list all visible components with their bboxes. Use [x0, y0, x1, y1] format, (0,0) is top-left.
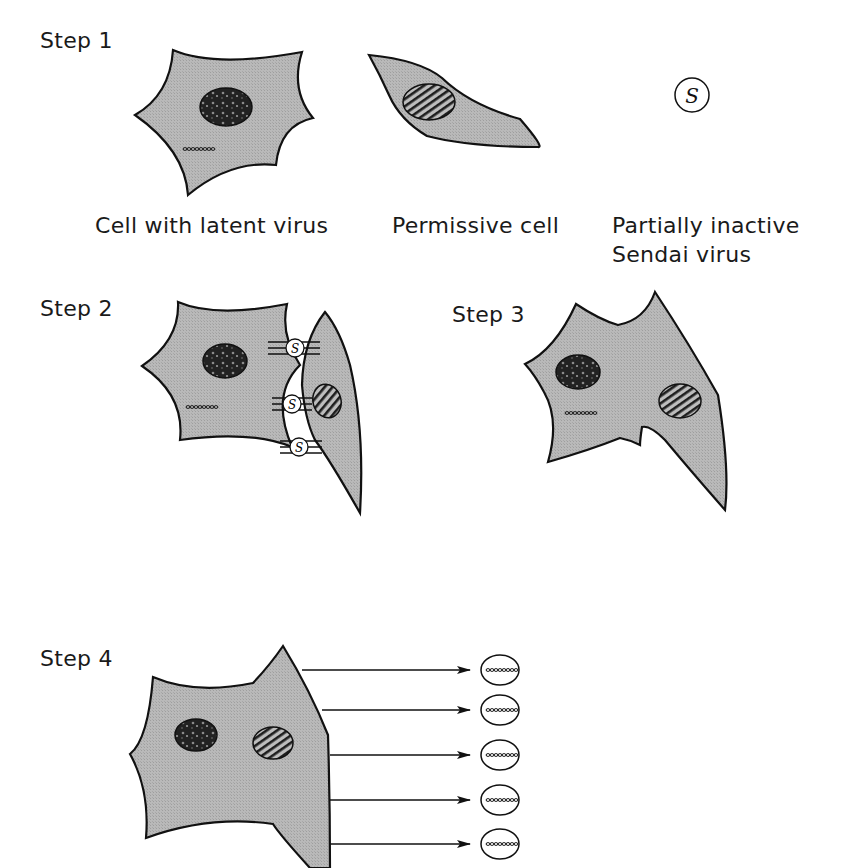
released-virion-3	[481, 740, 519, 770]
nucleus-latent-step3	[556, 355, 600, 389]
released-virion-4	[481, 785, 519, 815]
nucleus-latent-step2	[203, 344, 247, 378]
released-virion-5	[481, 829, 519, 859]
nucleus-latent-step4	[175, 719, 217, 751]
svg-text:S: S	[685, 84, 699, 108]
step-4-virus-release	[130, 646, 519, 868]
svg-text:S: S	[295, 441, 303, 455]
nucleus-latent	[200, 88, 252, 126]
step-3-heterokaryon	[525, 292, 726, 510]
sendai-bridge-2: S	[272, 395, 312, 413]
nucleus-permissive-step4	[253, 727, 293, 759]
cell-with-latent-virus	[135, 50, 313, 195]
sendai-bridge-1: S	[268, 339, 320, 357]
released-virion-1	[481, 655, 519, 685]
sendai-bridge-3: S	[280, 438, 322, 456]
svg-text:S: S	[288, 398, 296, 412]
step-2-fusion-group: S S S	[142, 302, 361, 513]
svg-text:S: S	[291, 342, 299, 356]
permissive-cell	[369, 55, 540, 147]
nucleus-permissive	[403, 84, 455, 120]
sendai-virus-icon: S	[675, 78, 709, 112]
diagram-canvas: S S S S	[0, 0, 845, 868]
released-virion-2	[481, 695, 519, 725]
nucleus-permissive-step3	[659, 384, 701, 418]
